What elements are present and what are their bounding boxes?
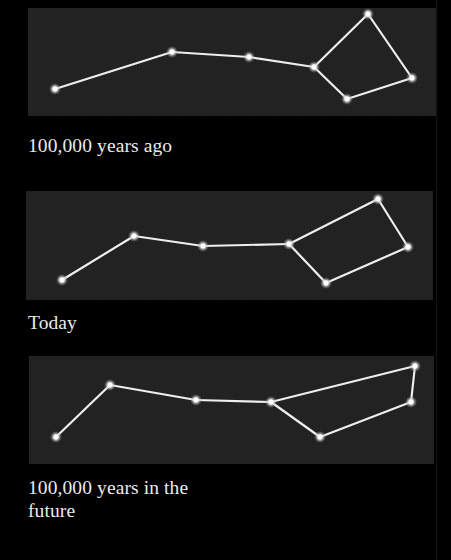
- scan-artifact-line: [436, 0, 437, 560]
- star-core-icon: [413, 364, 418, 369]
- constellation-line-past: [347, 78, 412, 99]
- constellation-line-past: [368, 14, 412, 78]
- star-core-icon: [410, 76, 415, 81]
- constellation-line-today: [62, 236, 134, 280]
- star-core-icon: [409, 400, 414, 405]
- constellation-line-today: [326, 247, 408, 283]
- constellation-line-future: [271, 366, 415, 402]
- constellation-line-future: [271, 402, 320, 437]
- constellation-lines: [55, 14, 415, 437]
- constellation-line-today: [378, 199, 408, 247]
- star-core-icon: [269, 400, 274, 405]
- star-core-icon: [366, 12, 371, 17]
- constellation-line-future: [110, 385, 196, 400]
- constellation-line-past: [172, 52, 249, 57]
- constellation-line-today: [203, 244, 289, 246]
- constellation-line-past: [314, 67, 347, 99]
- star-core-icon: [318, 435, 323, 440]
- star-core-icon: [345, 97, 350, 102]
- star-core-icon: [108, 383, 113, 388]
- star-core-icon: [53, 87, 58, 92]
- constellation-line-past: [314, 14, 368, 67]
- star-core-icon: [312, 65, 317, 70]
- constellation-line-past: [55, 52, 172, 89]
- star-core-icon: [376, 197, 381, 202]
- constellation-line-future: [196, 400, 271, 402]
- star-core-icon: [324, 281, 329, 286]
- star-core-icon: [201, 244, 206, 249]
- star-core-icon: [194, 398, 199, 403]
- star-core-icon: [54, 435, 59, 440]
- star-core-icon: [60, 278, 65, 283]
- star-core-icon: [170, 50, 175, 55]
- constellation-layer: [0, 0, 451, 560]
- constellation-line-today: [289, 244, 326, 283]
- constellation-line-today: [289, 199, 378, 244]
- star-core-icon: [247, 55, 252, 60]
- constellation-line-past: [249, 57, 314, 67]
- star-core-icon: [287, 242, 292, 247]
- constellation-line-future: [56, 385, 110, 437]
- constellation-line-future: [320, 402, 411, 437]
- constellation-line-today: [134, 236, 203, 246]
- star-core-icon: [132, 234, 137, 239]
- star-core-icon: [406, 245, 411, 250]
